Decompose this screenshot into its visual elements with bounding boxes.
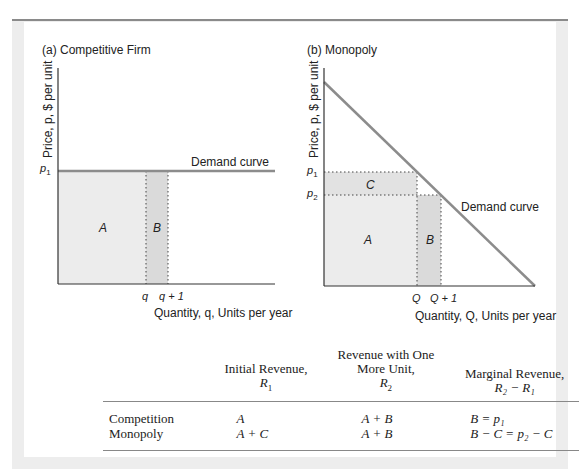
panel-a-xlabel: Quantity, q, Units per year bbox=[154, 306, 293, 320]
panel-a-region-a: A bbox=[99, 221, 107, 235]
table-row: Monopoly A + C A + B B − C = p₂ − C bbox=[103, 426, 579, 451]
panel-a-region-b: B bbox=[153, 221, 161, 235]
symbol-letter: R bbox=[380, 375, 388, 390]
panel-b-graphics bbox=[324, 68, 535, 286]
panel-b-demand-label: Demand curve bbox=[461, 200, 539, 214]
table-row: Competition A A + B B = p₁ bbox=[103, 401, 579, 426]
panel-a-q1-tick: q + 1 bbox=[159, 290, 184, 302]
panel-b-p2-tick: p2 bbox=[307, 187, 318, 202]
cell-mr: B − C = p₂ − C bbox=[450, 426, 579, 451]
panel-b-region-b: B bbox=[426, 233, 434, 247]
panel-b-region-c: C bbox=[366, 178, 375, 192]
panel-b-title: (b) Monopoly bbox=[307, 43, 377, 57]
header-text: Marginal Revenue, bbox=[456, 367, 573, 381]
cell-r1: A + C bbox=[210, 426, 321, 451]
panel-b-xlabel: Quantity, Q, Units per year bbox=[415, 309, 556, 323]
symbol-subscript: 2 bbox=[388, 383, 393, 393]
panel-a-demand-label: Demand curve bbox=[191, 155, 269, 169]
p1-subscript: 1 bbox=[46, 168, 50, 177]
panel-b-Q1-tick: Q + 1 bbox=[430, 292, 457, 304]
cell-r2: A + B bbox=[322, 426, 451, 451]
symbol-subscript: 1 bbox=[268, 383, 273, 393]
panel-b-p1-tick: p1 bbox=[307, 164, 318, 179]
panel-b-Q-tick: Q bbox=[412, 292, 421, 304]
cell-r2: A + B bbox=[322, 401, 451, 426]
panel-a-ylabel: Price, p, $ per unit bbox=[41, 61, 55, 158]
cell-mr: B = p₁ bbox=[450, 401, 579, 426]
header-text-line1: Revenue with One bbox=[328, 348, 445, 362]
header-text-line2: More Unit, bbox=[328, 362, 445, 376]
header-symbol: R2 bbox=[328, 376, 445, 395]
header-initial-revenue: Initial Revenue, R1 bbox=[210, 348, 321, 401]
header-empty bbox=[103, 348, 210, 401]
panel-a-title: (a) Competitive Firm bbox=[42, 43, 151, 57]
panel-a-q-tick: q bbox=[142, 290, 148, 302]
header-marginal-revenue: Marginal Revenue, R₂ − R₁ bbox=[450, 348, 579, 401]
header-symbol: R1 bbox=[216, 376, 315, 395]
panel-b-ylabel: Price, p, $ per unit bbox=[307, 61, 321, 158]
cell-r1: A bbox=[210, 401, 321, 426]
panel-a-p1-tick: p1 bbox=[40, 162, 51, 177]
header-symbol: R₂ − R₁ bbox=[456, 381, 573, 395]
revenue-table: Initial Revenue, R1 Revenue with One Mor… bbox=[103, 348, 579, 451]
panel-b-region-a: A bbox=[364, 233, 372, 247]
header-revenue-one-more: Revenue with One More Unit, R2 bbox=[322, 348, 451, 401]
symbol-letter: R bbox=[260, 375, 268, 390]
row-label: Monopoly bbox=[103, 426, 210, 451]
p1-subscript: 1 bbox=[313, 170, 317, 179]
p2-subscript: 2 bbox=[313, 193, 317, 202]
header-text: Initial Revenue, bbox=[216, 362, 315, 376]
row-label: Competition bbox=[103, 401, 210, 426]
panel-a-graphics bbox=[58, 68, 275, 284]
table-header-row: Initial Revenue, R1 Revenue with One Mor… bbox=[103, 348, 579, 401]
